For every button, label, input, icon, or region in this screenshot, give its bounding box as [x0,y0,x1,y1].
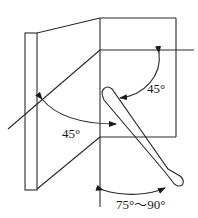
bottom-angle-arc-arrow [103,188,165,194]
upper-diagonal-line [8,50,100,129]
lower-angle-label: 45° [62,126,80,141]
upper-angle-label: 45° [147,81,165,96]
bottom-angle-label: 75°～90° [116,197,165,212]
left-panel [25,33,37,190]
left-panel-outline [25,33,37,190]
top-slanted-edge [37,18,100,33]
diagram-canvas: 45° 45° 75°～90° [0,0,198,218]
lower-diagonal-line [37,137,100,189]
lower-angle-arc-arrow [42,99,116,124]
right-box [100,18,176,137]
